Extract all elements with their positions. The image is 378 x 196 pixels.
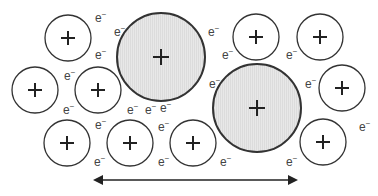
electron-label: e− — [64, 68, 76, 83]
electron-label: e− — [158, 119, 170, 134]
electron-label: e− — [286, 47, 298, 62]
electron-label: e− — [220, 154, 232, 169]
small-ion — [300, 119, 346, 165]
small-ion — [319, 65, 365, 111]
small-ion — [44, 120, 90, 166]
arrow-head-right-icon — [288, 175, 298, 185]
small-ion — [107, 120, 153, 166]
electron-label: e− — [286, 154, 298, 169]
electron-label: e− — [160, 100, 172, 115]
large-ion — [117, 13, 205, 101]
small-ion — [45, 15, 91, 61]
large-ion — [213, 64, 301, 152]
electron-label: e− — [222, 47, 234, 62]
metallic-bonding-diagram: e−e−e−e−e−e−e−e−e−e−e−e−e−e−e−e−e−e−e−e− — [0, 0, 378, 196]
small-ion — [233, 14, 279, 60]
electron-label: e− — [95, 47, 107, 62]
electron-label: e− — [95, 10, 107, 25]
arrow-head-left-icon — [93, 175, 103, 185]
double-arrow — [93, 175, 298, 185]
electron-label: e− — [158, 154, 170, 169]
electron-label: e− — [208, 24, 220, 39]
small-ion — [297, 14, 343, 60]
small-ion — [75, 67, 121, 113]
electron-label: e− — [95, 117, 107, 132]
diagram-canvas: e−e−e−e−e−e−e−e−e−e−e−e−e−e−e−e−e−e−e−e− — [0, 0, 378, 196]
electron-label: e− — [359, 119, 371, 134]
small-ion — [12, 67, 58, 113]
small-ion — [170, 120, 216, 166]
electron-label: e− — [127, 102, 139, 117]
electron-label: e− — [63, 102, 75, 117]
electron-label: e− — [94, 154, 106, 169]
electron-label: e− — [305, 76, 317, 91]
electron-label: e− — [145, 102, 157, 117]
